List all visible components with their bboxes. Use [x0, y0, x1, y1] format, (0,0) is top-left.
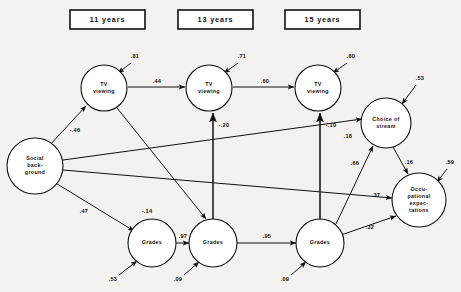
node-label-choice: stream [376, 123, 395, 129]
coefficient-social-tv11: -.46 [70, 127, 80, 133]
node-label-tv13: viewing [198, 88, 220, 94]
coefficient-res-tv15: .60 [347, 53, 355, 59]
node-tv13: TVviewing [186, 65, 232, 111]
era-header-label: 13 years [198, 15, 234, 24]
node-choice: Choice ofstream [361, 98, 411, 148]
node-label-social: ground [25, 169, 45, 175]
node-tv11: TVviewing [81, 65, 127, 111]
era-header-0: 11 years [70, 10, 145, 29]
path-edge-social-tv11 [48, 106, 86, 147]
era-header-group: 11 years13 years15 years [70, 10, 360, 29]
node-grades11: Grades [128, 219, 176, 267]
coefficient-res-tv11: .81 [131, 53, 139, 59]
node-label-social: Social [26, 155, 44, 161]
era-header-1: 13 years [178, 10, 253, 29]
node-grades13: Grades [189, 219, 237, 267]
node-label-grades11: Grades [142, 239, 162, 245]
coefficient-grades15-choice: .66 [351, 160, 359, 166]
path-diagram-figure: 11 years13 years15 years Socialback-grou… [0, 0, 461, 292]
residual-arrow-res-choice [402, 85, 416, 104]
node-label-tv11: TV [100, 81, 108, 87]
node-label-choice: Choice of [372, 116, 399, 122]
era-header-label: 11 years [90, 15, 126, 24]
residual-arrow-res-occup [437, 169, 447, 182]
residual-arrow-res-tv13 [224, 63, 238, 73]
node-label-social: back- [27, 162, 43, 168]
node-social: Socialback-ground [7, 138, 63, 194]
node-label-occup: expec- [410, 200, 429, 206]
node-label-tv15: viewing [307, 88, 329, 94]
coefficient-res-grades11: .53 [109, 276, 117, 282]
coefficient-res-choice: .53 [416, 75, 424, 81]
coefficient-tv13-tv15: .60 [261, 78, 269, 84]
coefficient-tv11-tv13: .44 [153, 78, 162, 84]
node-label-occup: Occu- [411, 186, 428, 192]
coefficient-grades11-grades13: .97 [179, 233, 187, 239]
node-label-tv15: TV [314, 81, 322, 87]
residual-arrow-res-grades15 [291, 262, 306, 275]
node-label-tv13: TV [205, 81, 213, 87]
coefficient-grades13-tv13: -.20 [219, 122, 229, 128]
residual-arrow-res-grades11 [119, 261, 137, 275]
node-label-occup: pational [407, 193, 430, 199]
node-grades15: Grades [296, 219, 344, 267]
node-tv15: TVviewing [295, 65, 341, 111]
node-label-grades13: Grades [203, 239, 223, 245]
coefficient-res-tv13: .71 [238, 53, 246, 59]
node-label-grades15: Grades [310, 239, 330, 245]
era-header-2: 15 years [285, 10, 360, 29]
path-diagram-canvas: 11 years13 years15 years Socialback-grou… [0, 0, 461, 292]
coefficient-choice-tv15arrow: .18 [344, 133, 352, 139]
coefficient-socialoccup-lbl: .37 [372, 192, 380, 198]
residual-arrow-res-grades13 [184, 262, 199, 275]
node-group: Socialback-groundTVviewingTVviewingTVvie… [7, 65, 446, 267]
coefficient-grades15-tv15: -.10 [326, 122, 336, 128]
node-label-occup: tations [409, 207, 429, 213]
coefficient-tv11-grades13: -.14 [142, 208, 153, 214]
era-header-label: 15 years [305, 15, 341, 24]
coefficient-res-occup: .59 [446, 159, 454, 165]
coefficient-grades15-occup: .32 [366, 224, 374, 230]
coefficient-choice-occup: .16 [405, 159, 413, 165]
coefficient-res-grades15: .09 [281, 276, 289, 282]
path-edge-tv11-grades13 [117, 108, 206, 219]
coefficient-grades13-grades15: .95 [263, 233, 271, 239]
coefficient-social-grades11: .47 [80, 208, 88, 214]
coefficient-res-grades13: .09 [174, 276, 182, 282]
path-edge-social-occup [63, 170, 392, 198]
node-occup: Occu-pationalexpec-tations [392, 173, 446, 227]
path-edge-grades15-choice [336, 146, 373, 224]
node-label-tv11: viewing [93, 88, 115, 94]
path-edge-social-grades11 [54, 182, 134, 231]
residual-arrow-res-tv15 [333, 63, 347, 73]
